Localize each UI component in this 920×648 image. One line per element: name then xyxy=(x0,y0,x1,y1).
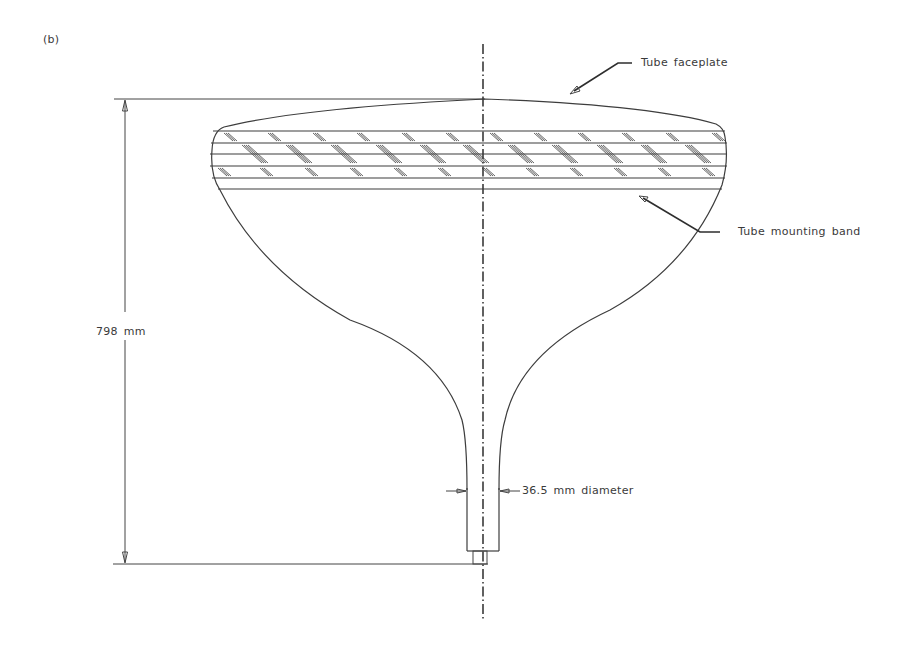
height-dimension-label: 798 mm xyxy=(96,325,146,338)
faceplate-label: Tube faceplate xyxy=(641,56,728,69)
crt-tube-drawing xyxy=(0,0,920,648)
panel-label: (b) xyxy=(43,33,59,46)
neck-diameter-label: 36.5 mm diameter xyxy=(522,484,634,497)
bulb-left-outline xyxy=(212,127,467,490)
bulb-right-outline xyxy=(499,137,726,490)
mounting-band xyxy=(210,131,727,189)
mounting-band-label: Tube mounting band xyxy=(738,225,861,238)
faceplate-leader xyxy=(570,63,632,94)
